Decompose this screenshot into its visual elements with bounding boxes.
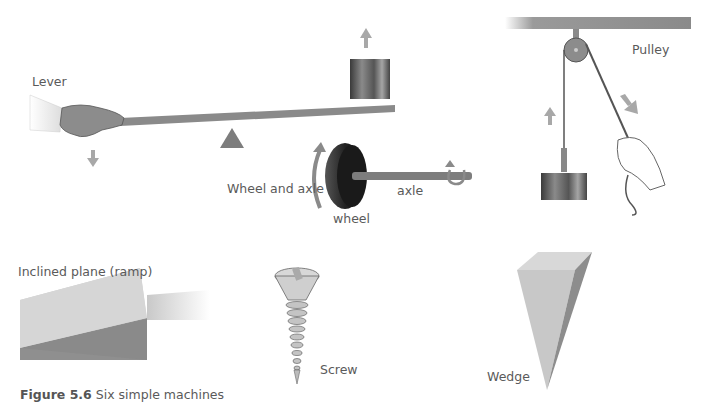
figure-caption: Figure 5.6 Six simple machines: [20, 387, 224, 402]
label-wheel-and-axle: Wheel and axle: [227, 181, 324, 196]
simple-machines-illustration: [0, 0, 706, 419]
arrow-down-right-icon: [620, 94, 638, 114]
arrow-up-icon: [360, 28, 372, 48]
ceiling-beam: [505, 17, 691, 29]
arrow-up-icon: [544, 107, 556, 125]
arrow-down-icon: [87, 150, 99, 167]
label-screw: Screw: [320, 362, 358, 377]
rotation-arrow-icon: [314, 150, 320, 208]
label-inclined-plane: Inclined plane (ramp): [18, 264, 152, 279]
axle-rod: [352, 172, 472, 180]
pulley-load: [541, 173, 587, 200]
label-wheel: wheel: [333, 211, 370, 226]
fulcrum-icon: [220, 128, 244, 148]
screw-diagram: [275, 267, 319, 384]
wheel-and-axle-diagram: [313, 142, 472, 209]
label-pulley: Pulley: [632, 42, 669, 57]
label-axle: axle: [397, 183, 423, 198]
inclined-plane-diagram: [20, 268, 210, 360]
figure-caption-text: Six simple machines: [92, 387, 224, 402]
label-lever: Lever: [32, 74, 67, 89]
figure-number: Figure 5.6: [20, 387, 92, 402]
load-cylinder: [350, 59, 390, 99]
label-wedge: Wedge: [487, 369, 530, 384]
